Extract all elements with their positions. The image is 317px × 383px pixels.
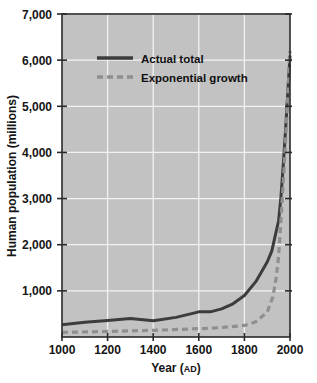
x-tick-label: 1000	[49, 343, 76, 357]
y-tick-label: 4,000	[22, 146, 52, 160]
legend-label-1: Actual total	[141, 53, 204, 65]
x-tick-label: 1200	[94, 343, 121, 357]
y-tick-label: 3,000	[22, 192, 52, 206]
x-tick-label: 2000	[277, 343, 304, 357]
population-growth-chart: 1,0002,0003,0004,0005,0006,0007,000 1000…	[0, 0, 317, 383]
y-axis-title: Human population (millions)	[5, 95, 19, 257]
y-tick-label: 7,000	[22, 8, 52, 22]
x-axis-title-era: AD	[184, 364, 197, 374]
x-axis-title-main: Year (	[151, 361, 184, 375]
y-tick-label: 2,000	[22, 238, 52, 252]
x-axis-title: Year (AD)	[151, 361, 201, 375]
x-axis-title-paren: )	[197, 361, 201, 375]
x-tick-label: 1600	[185, 343, 212, 357]
chart-svg: 1,0002,0003,0004,0005,0006,0007,000 1000…	[0, 0, 317, 383]
x-axis-tick-labels: 100012001400160018002000	[49, 343, 304, 357]
y-tick-label: 6,000	[22, 54, 52, 68]
x-tick-label: 1400	[140, 343, 167, 357]
legend-label-2: Exponential growth	[141, 72, 248, 84]
x-tick-label: 1800	[231, 343, 258, 357]
y-tick-label: 5,000	[22, 100, 52, 114]
y-tick-label: 1,000	[22, 284, 52, 298]
y-axis-tick-labels: 1,0002,0003,0004,0005,0006,0007,000	[22, 8, 52, 299]
